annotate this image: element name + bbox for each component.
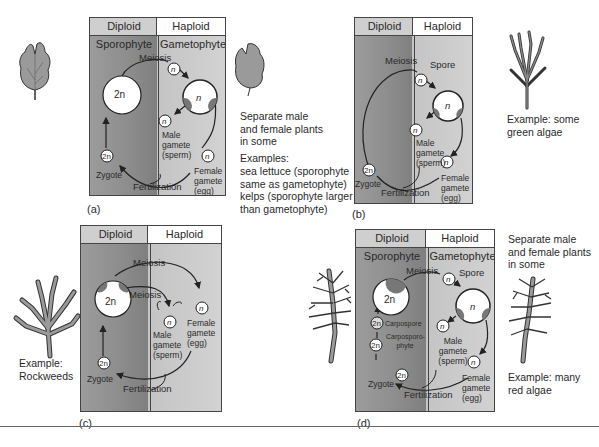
zygote-cell-2n: 2n (99, 359, 108, 369)
rockweed-illustration (12, 268, 82, 358)
meiosis-label: Meiosis (139, 53, 171, 63)
zygote-cell-2n: 2n (364, 166, 373, 176)
meiosis-label: Meiosis (406, 266, 438, 276)
male-gamete-label: Male gamete (sperm) (153, 330, 185, 360)
meiosis-outer-label: Meiosis (133, 258, 165, 268)
example-a-1: sea lettuce (sporophyte same as gametoph… (240, 165, 355, 190)
female-cell-n: n (205, 152, 209, 162)
fertilization-label: Fertilization (381, 188, 430, 198)
seaweed-illustration-a-left (15, 40, 55, 100)
sporophyte-cell-2n: 2n (384, 295, 395, 305)
zygote-label: Zygote (355, 179, 381, 189)
female-cell-n: n (199, 304, 203, 314)
zygote-cell-2n: 2n (102, 152, 111, 162)
spore-cell-n: n (446, 275, 450, 285)
sporophyte-cell-2n: 2n (105, 297, 116, 307)
fertilization-label: Fertilization (133, 182, 182, 192)
carposporophyte-label: Carposporo-phyte (386, 332, 424, 350)
male-gamete-label: Male gamete (sperm) (416, 138, 446, 168)
female-cell-n: n (471, 358, 475, 368)
green-algae-illustration (505, 30, 549, 110)
red-algae-illustration-right (505, 273, 555, 363)
seaweed-illustration-a-right (232, 42, 268, 97)
zygote-label: Zygote (96, 170, 122, 180)
caption-b: (b) (352, 208, 365, 220)
male-gamete-label: Male gamete (sperm) (162, 130, 192, 160)
example-a-2: kelps (sporophyte larger than gametophyt… (240, 190, 355, 215)
carposporophyte-cell-2n: 2n (371, 341, 380, 351)
meiosis-inner-label: Meiosis (129, 290, 161, 300)
male-cell-n: n (167, 318, 171, 328)
caption-d: (d) (357, 417, 370, 429)
male-cell-n: n (413, 126, 417, 136)
spore-label: Spore (430, 60, 455, 70)
caption-a: (a) (87, 203, 100, 215)
gametophyte-cell-n: n (470, 302, 475, 312)
spore-cell-n: n (171, 65, 175, 75)
carpospore-label: Carpospore (385, 319, 422, 329)
example-d: Example: many red algae (508, 371, 588, 396)
red-algae-illustration-left (303, 263, 353, 363)
life-cycle-panel-a: Diploid Haploid Sporophyte Gametophyte 2… (89, 17, 226, 196)
life-cycle-panel-d: Diploid Haploid Sporophyte Gametophyte M… (355, 229, 495, 412)
zygote-cell-2n: 2n (397, 371, 406, 381)
life-cycle-panel-b: Diploid Haploid Meiosis Spore n n n n 2n… (354, 17, 473, 204)
sporophyte-cell-2n: 2n (114, 90, 125, 100)
example-b: Example: some green algae (507, 113, 587, 138)
gametophyte-cell-n: n (445, 101, 450, 111)
fertilization-label: Fertilization (404, 390, 453, 400)
male-gamete-label: Male gamete (sperm) (436, 336, 470, 366)
side-note-d: Separate male and female plants in some (508, 233, 593, 271)
female-gamete-label: Female gamete (egg) (441, 173, 473, 203)
caption-c: (c) (79, 417, 92, 429)
male-cell-n: n (162, 117, 166, 127)
examples-title-a: Examples: (240, 152, 289, 165)
fertilization-label: Fertilization (123, 384, 172, 394)
meiosis-label: Meiosis (385, 56, 417, 66)
example-c: Example: Rockweeds (19, 357, 79, 382)
carpospore-cell-2n: 2n (372, 319, 381, 329)
female-gamete-label: Female gamete (egg) (194, 166, 226, 196)
gametophyte-cell-n: n (196, 93, 201, 103)
life-cycle-panel-c: Diploid Haploid Meiosis Meiosis 2n n n 2… (80, 225, 222, 412)
spore-cell-n: n (418, 76, 422, 86)
female-gamete-label: Female gamete (egg) (187, 318, 221, 348)
side-note-a: Separate male and female plants in some (240, 110, 328, 148)
spore-label: Spore (459, 268, 484, 278)
bottom-rule (0, 426, 599, 427)
zygote-label: Zygote (368, 379, 394, 389)
male-cell-n: n (440, 322, 444, 332)
zygote-label: Zygote (87, 374, 113, 384)
female-gamete-label: Female gamete (egg) (462, 373, 495, 403)
